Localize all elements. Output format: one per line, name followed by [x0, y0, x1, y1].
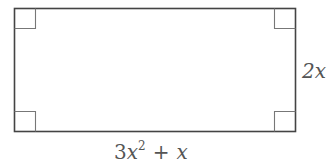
- right-angle-marker-top-left: [15, 9, 36, 29]
- width-label: 3x2+x: [114, 139, 188, 164]
- rectangle: [15, 9, 296, 132]
- height-label: 2x: [301, 59, 326, 83]
- rectangle-diagram: 3x2+x 2x: [0, 0, 329, 165]
- right-angle-marker-bottom-right: [275, 112, 296, 132]
- right-angle-marker-bottom-left: [15, 112, 36, 132]
- right-angle-marker-top-right: [275, 9, 296, 29]
